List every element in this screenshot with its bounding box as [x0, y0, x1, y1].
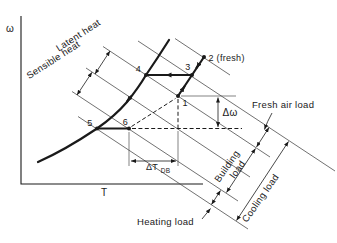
label-point-4: 4 [136, 64, 141, 74]
arrow-4-to-5 [127, 97, 131, 102]
axis-lines [21, 16, 203, 184]
point-6 [127, 127, 131, 131]
point-labels: 1 2 (fresh) 3 4 5 6 [87, 53, 244, 128]
y-axis-label: ω [6, 23, 14, 34]
fresh-air-load-arrow [257, 128, 270, 148]
delta-t-subscript: DB [161, 167, 171, 174]
label-point-1: 1 [183, 98, 188, 108]
label-point-5: 5 [87, 118, 92, 128]
heating-pointer [202, 209, 211, 220]
point-2 [202, 55, 206, 59]
delta-omega-label: Δω [223, 107, 238, 118]
point-1 [176, 94, 180, 98]
heating-load-arrow [212, 191, 221, 205]
point-5 [95, 127, 99, 131]
point-3 [190, 73, 194, 77]
enthalpy-line-h6 [72, 92, 238, 202]
cooling-load-arrow [237, 142, 289, 221]
psychrometric-load-diagram: ω T [0, 0, 337, 243]
point-4 [144, 73, 148, 77]
x-axis-label: T [101, 187, 107, 198]
enthalpy-lines [72, 39, 335, 230]
delta-t-text: ΔT [146, 162, 158, 172]
label-point-6: 6 [123, 117, 128, 127]
fresh-air-load-label: Fresh air load [252, 99, 314, 110]
delta-tdb-label: ΔT DB [146, 162, 170, 174]
heating-load-label: Heating load [137, 216, 194, 227]
cooling-load-label: Cooling load [239, 172, 280, 225]
latent-heat-arrow [95, 51, 110, 74]
label-point-3: 3 [185, 62, 190, 72]
annotation-labels: Latent heat Sensible heat Fresh air load… [24, 17, 314, 227]
building-load-label: Building load [212, 146, 252, 190]
axes: ω T [6, 16, 203, 198]
label-point-2: 2 (fresh) [209, 53, 245, 63]
sensible-heat-arrow [77, 72, 92, 95]
arrow-1-to-3 [182, 87, 185, 91]
arrow-2-to-3 [197, 64, 200, 68]
